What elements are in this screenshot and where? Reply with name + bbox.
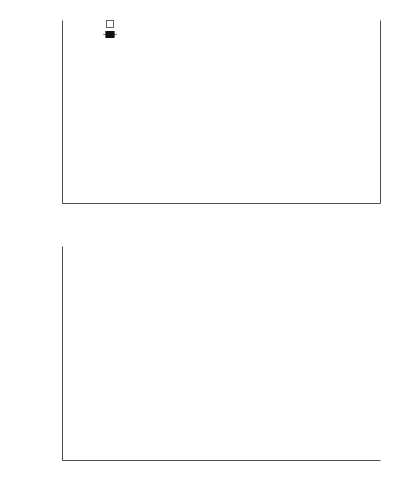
figure-container xyxy=(0,0,405,491)
legend-yield-square-icon xyxy=(106,32,114,38)
two-panel-chart xyxy=(0,0,405,491)
legend-production-swatch-icon xyxy=(107,21,114,28)
chart-background xyxy=(0,0,405,491)
